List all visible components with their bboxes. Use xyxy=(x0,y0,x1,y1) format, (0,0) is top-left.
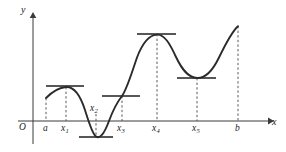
tick-label-x1: x1 xyxy=(61,124,69,134)
x-axis-label: x xyxy=(272,117,276,127)
function-graph-figure: O y x a x1 x2 x3 x4 x5 b xyxy=(0,0,286,152)
tick-label-x3-text: x xyxy=(117,123,121,133)
tick-label-x1-sub: 1 xyxy=(66,127,69,134)
origin-label: O xyxy=(19,123,26,133)
y-axis-label: y xyxy=(21,5,25,15)
tick-label-x3: x3 xyxy=(117,124,125,134)
tick-label-x5-sub: 5 xyxy=(197,127,200,134)
tick-label-b: b xyxy=(235,124,240,134)
tick-label-x2: x2 xyxy=(90,104,98,114)
tick-label-x5-text: x xyxy=(192,123,196,133)
tick-label-b-text: b xyxy=(235,123,240,133)
dashed-drop-lines xyxy=(46,26,238,137)
tick-label-x5: x5 xyxy=(192,124,200,134)
tick-label-x3-sub: 3 xyxy=(122,127,125,134)
tangent-lines xyxy=(46,34,216,137)
tick-label-x2-text: x xyxy=(90,103,94,113)
y-axis-arrowhead xyxy=(30,12,37,18)
tick-label-x4-text: x xyxy=(152,123,156,133)
tick-label-a: a xyxy=(43,124,48,134)
tick-label-x4-sub: 4 xyxy=(157,127,160,134)
tick-label-a-text: a xyxy=(43,123,48,133)
tick-label-x4: x4 xyxy=(152,124,160,134)
tick-label-x1-text: x xyxy=(61,123,65,133)
tick-label-x2-sub: 2 xyxy=(95,107,98,114)
